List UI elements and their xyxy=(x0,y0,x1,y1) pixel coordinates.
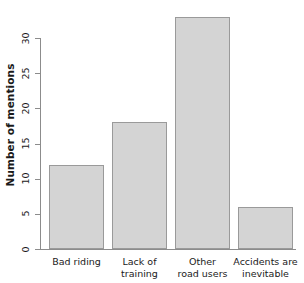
x-axis-category-label: Accidents areinevitable xyxy=(224,256,304,279)
category-label-line-1: Accidents are xyxy=(233,256,297,267)
bar xyxy=(238,207,293,249)
y-axis-tick-mark xyxy=(35,214,40,215)
category-label-line-1: Other xyxy=(189,256,216,267)
x-axis-line xyxy=(40,249,296,250)
y-axis-tick-label-text: 20 xyxy=(20,102,31,114)
y-axis-tick-label: 15 xyxy=(18,137,32,151)
y-axis-tick-label-text: 30 xyxy=(20,32,31,44)
category-label-line-1: Lack of xyxy=(122,256,156,267)
y-axis-tick-label: 30 xyxy=(18,31,32,45)
category-label-line-2: inevitable xyxy=(224,268,304,280)
y-axis-tick-label: 0 xyxy=(18,242,32,256)
y-axis-tick-mark xyxy=(35,108,40,109)
y-axis-tick-mark xyxy=(35,179,40,180)
y-axis-tick-label: 10 xyxy=(18,172,32,186)
y-axis-tick-label-text: 0 xyxy=(19,246,30,252)
y-axis-tick-label-text: 5 xyxy=(19,211,30,217)
category-label-line-1: Bad riding xyxy=(52,256,101,267)
bar-chart: Number of mentions 051015202530 Bad ridi… xyxy=(0,0,304,283)
y-axis-tick-label: 25 xyxy=(18,66,32,80)
y-axis-tick-mark xyxy=(35,144,40,145)
y-axis-line xyxy=(40,38,41,250)
bar xyxy=(49,165,104,249)
y-axis-tick-label-text: 25 xyxy=(20,67,31,79)
y-axis-tick-label: 20 xyxy=(18,101,32,115)
y-axis-tick-mark xyxy=(35,73,40,74)
y-axis-title-text: Number of mentions xyxy=(3,63,15,186)
bar xyxy=(175,17,230,249)
y-axis-tick-mark xyxy=(35,38,40,39)
y-axis-tick-label-text: 15 xyxy=(20,137,31,149)
bar xyxy=(112,122,167,249)
y-axis-tick-label: 5 xyxy=(18,207,32,221)
y-axis-tick-label-text: 10 xyxy=(20,173,31,185)
y-axis-title: Number of mentions xyxy=(0,0,18,249)
y-axis-tick-mark xyxy=(35,249,40,250)
